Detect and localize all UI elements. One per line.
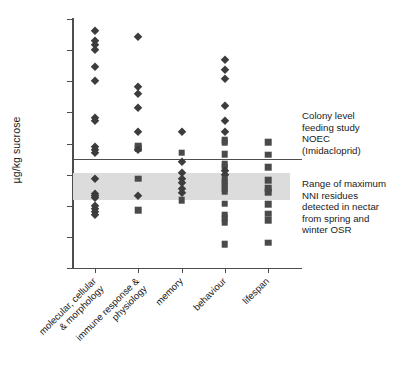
y-axis-tick	[67, 81, 72, 82]
data-point-square	[135, 207, 142, 214]
data-point-square	[265, 201, 272, 208]
x-axis-tick	[225, 268, 226, 273]
plot-area	[73, 19, 290, 268]
data-point-square	[265, 151, 272, 158]
x-axis-tick	[268, 268, 269, 273]
data-point-square	[178, 197, 185, 204]
x-axis-category-label-line: behaviour	[191, 276, 228, 313]
data-point-square	[222, 151, 229, 158]
data-point-square	[265, 239, 272, 246]
x-axis-category-label-line: memory	[153, 276, 185, 308]
data-point-square	[265, 217, 272, 224]
y-axis-tick	[67, 50, 72, 51]
data-point-square	[265, 139, 272, 146]
data-point-square	[222, 139, 229, 146]
data-point-square	[222, 219, 229, 226]
x-axis-tick	[182, 268, 183, 273]
x-axis-category-label: behaviour	[191, 276, 228, 313]
noec-reference-line	[73, 159, 302, 160]
x-axis-tick	[95, 268, 96, 273]
y-axis-tick	[67, 19, 72, 20]
data-point-square	[178, 149, 185, 156]
data-point-square	[222, 189, 229, 196]
x-axis-tick	[138, 268, 139, 273]
annotation-noec: Colony level feeding study NOEC (Imidacl…	[302, 110, 402, 156]
data-point-square	[135, 175, 142, 182]
data-point-square	[265, 177, 272, 184]
y-axis-tick	[67, 112, 72, 113]
data-point-square	[222, 201, 229, 208]
y-axis-tick	[67, 144, 72, 145]
x-axis-category-label: lifespan	[241, 276, 272, 307]
y-axis-tick	[67, 237, 72, 238]
data-point-square	[265, 164, 272, 171]
annotation-residue-range: Range of maximum NNI residues detected i…	[302, 178, 402, 236]
x-axis-category-label-line: lifespan	[241, 276, 272, 307]
y-axis-tick	[67, 206, 72, 207]
y-axis-tick	[67, 268, 72, 269]
data-point-square	[222, 241, 229, 248]
y-axis-tick	[67, 175, 72, 176]
data-point-square	[265, 189, 272, 196]
chart-figure: µg/kg sucrose 10000001000001000010001001…	[0, 0, 404, 367]
x-axis-category-label: memory	[153, 276, 185, 308]
